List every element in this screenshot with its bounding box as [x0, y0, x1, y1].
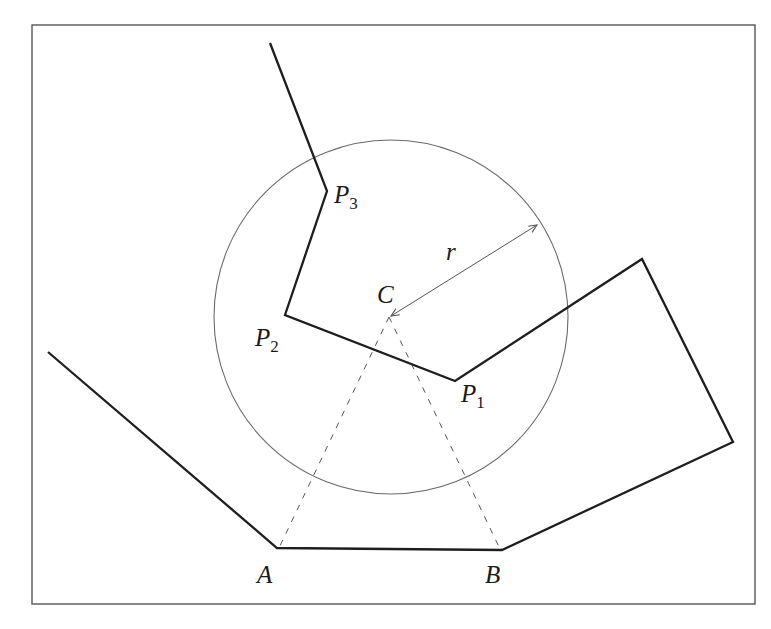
- radius-circle: [214, 140, 568, 494]
- radius-arrow: [391, 225, 537, 316]
- dashed-line-c-to-a: [279, 317, 389, 548]
- label-a: A: [255, 561, 273, 588]
- label-p1-sub: 1: [476, 393, 485, 412]
- label-p2-base: P: [254, 324, 270, 351]
- label-p2: P2: [254, 324, 279, 356]
- label-p3-base: P: [333, 181, 349, 208]
- label-p1-base: P: [460, 380, 476, 407]
- label-r: r: [446, 238, 456, 265]
- label-p3: P3: [333, 181, 358, 213]
- label-c: C: [377, 281, 394, 308]
- label-p3-sub: 3: [349, 194, 358, 213]
- dashed-line-c-to-b: [389, 317, 500, 549]
- label-p2-sub: 2: [270, 337, 279, 356]
- geometry-diagram: r C P3 P2 P1 A B: [0, 0, 771, 629]
- label-b: B: [485, 561, 500, 588]
- label-p1: P1: [460, 380, 485, 412]
